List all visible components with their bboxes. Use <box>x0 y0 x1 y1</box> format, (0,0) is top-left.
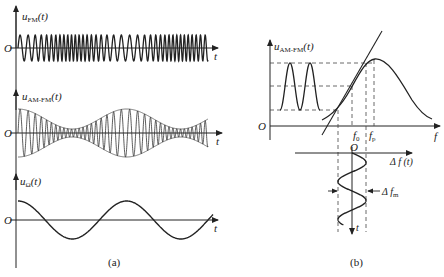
b-origin-label: O <box>258 120 266 132</box>
mod-t-label: t <box>214 222 218 234</box>
b-tangent-line <box>322 31 382 135</box>
caption-b: (b) <box>350 256 363 269</box>
panel-b: uAM-FM(t) O f f0 fp O Δ f (t) t Δ fm <box>258 31 440 269</box>
b-lower-origin-label: O <box>350 141 358 153</box>
diagram-canvas: uFM(t) O t uAM-FM(t) O t uΩ(t) O t (a) <box>0 0 444 277</box>
b-deviation-label: Δ fm <box>381 186 399 199</box>
b-output-waveform <box>280 63 320 110</box>
mod-origin-label: O <box>4 214 12 226</box>
amfm-plot: uAM-FM(t) O t <box>4 90 222 157</box>
mod-y-label: uΩ(t) <box>20 175 41 189</box>
amfm-envelope-lower <box>18 137 208 157</box>
panel-a: uFM(t) O t uAM-FM(t) O t uΩ(t) O t (a) <box>4 6 222 269</box>
caption-a: (a) <box>108 256 121 269</box>
b-t-label: t <box>356 222 359 233</box>
amfm-y-label: uAM-FM(t) <box>22 90 62 104</box>
b-f-label: f <box>434 130 439 142</box>
fm-t-label: t <box>214 50 218 62</box>
modulating-signal-plot: uΩ(t) O t <box>4 174 218 239</box>
amfm-t-label: t <box>216 135 220 147</box>
amfm-origin-label: O <box>4 127 12 139</box>
fm-y-label: uFM(t) <box>22 10 48 24</box>
b-y-label: uAM-FM(t) <box>274 40 314 54</box>
b-fp-label: fp <box>369 129 376 143</box>
b-resonance-curve <box>322 59 432 120</box>
b-delta-f-label: Δ f (t) <box>389 156 414 168</box>
fm-plot: uFM(t) O t <box>4 6 218 62</box>
fm-origin-label: O <box>4 42 12 54</box>
